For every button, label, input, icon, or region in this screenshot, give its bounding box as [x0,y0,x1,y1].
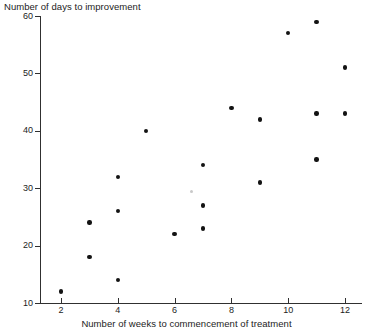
x-axis-line [40,303,362,304]
y-tick-label: 20 [3,241,33,250]
x-tick-label: 10 [276,306,300,315]
x-tick-label: 2 [49,306,73,315]
data-point [201,203,205,207]
y-tick-label: 40 [3,126,33,135]
y-tick-mark [35,246,41,247]
data-point [144,129,148,133]
data-point [314,157,318,161]
x-tick-label: 12 [333,306,357,315]
y-tick-label: 30 [3,184,33,193]
x-tick-mark [231,298,232,304]
data-point [314,111,318,115]
x-tick-label: 4 [106,306,130,315]
print-artifact-smudge [190,190,193,193]
data-point [87,220,91,224]
y-tick-mark [35,16,41,17]
data-point [116,278,120,282]
data-point [314,20,318,24]
data-point [172,232,176,236]
x-tick-mark [345,298,346,304]
scatter-plot-figure: Number of days to improvement 1020304050… [0,0,373,335]
y-tick-label: 60 [3,12,33,21]
x-tick-mark [288,298,289,304]
x-tick-label: 6 [163,306,187,315]
data-point [343,111,347,115]
data-point [343,65,347,69]
x-axis-title: Number of weeks to commencement of treat… [0,318,373,329]
data-point [258,117,262,121]
y-tick-mark [35,188,41,189]
y-tick-mark [35,303,41,304]
data-point [116,209,120,213]
y-axis-line [40,16,41,304]
data-point [87,255,91,259]
x-tick-mark [175,298,176,304]
data-point [201,163,205,167]
x-tick-mark [61,298,62,304]
y-tick-label: 50 [3,69,33,78]
data-point [116,175,120,179]
x-tick-label: 8 [219,306,243,315]
data-point [258,180,262,184]
data-point [229,106,233,110]
data-point [286,31,290,35]
data-point [201,226,205,230]
y-tick-label: 10 [3,299,33,308]
y-tick-mark [35,131,41,132]
data-point [59,289,63,293]
y-tick-mark [35,73,41,74]
x-tick-mark [118,298,119,304]
